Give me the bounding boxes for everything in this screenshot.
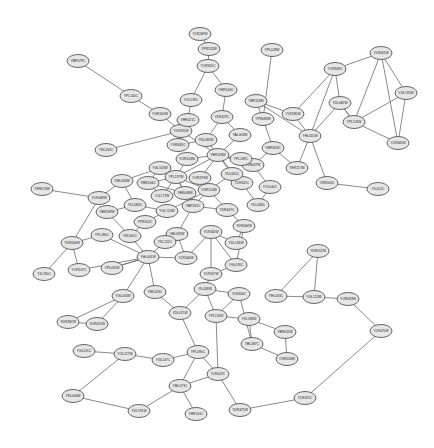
- graph-node[interactable]: YDR447C: [216, 204, 238, 217]
- graph-node[interactable]: YDL184C: [247, 199, 269, 212]
- node-ellipse[interactable]: [68, 264, 90, 277]
- node-ellipse[interactable]: [200, 268, 222, 281]
- graph-node[interactable]: YBR079C: [67, 55, 89, 68]
- node-ellipse[interactable]: [189, 28, 211, 41]
- graph-node[interactable]: YGL147C: [152, 354, 174, 367]
- node-ellipse[interactable]: [86, 318, 108, 331]
- graph-node[interactable]: YLR048W: [88, 192, 110, 205]
- node-ellipse[interactable]: [167, 139, 189, 152]
- node-ellipse[interactable]: [154, 236, 176, 249]
- graph-node[interactable]: YJL190C: [33, 268, 55, 281]
- graph-node[interactable]: YLR029C: [207, 368, 229, 381]
- graph-node[interactable]: YBR118W: [245, 95, 267, 108]
- graph-node[interactable]: YDL136W: [225, 237, 247, 250]
- node-ellipse[interactable]: [119, 230, 141, 243]
- graph-node[interactable]: YDR064W: [61, 237, 83, 250]
- node-ellipse[interactable]: [221, 168, 243, 181]
- graph-node[interactable]: YDL083C: [124, 199, 146, 212]
- graph-node[interactable]: YOR167C: [68, 264, 90, 277]
- graph-node[interactable]: YPL131W: [343, 116, 365, 129]
- graph-node[interactable]: YBR031W: [274, 326, 296, 339]
- node-ellipse[interactable]: [324, 63, 346, 76]
- graph-node[interactable]: YMR309C: [262, 142, 284, 155]
- node-ellipse[interactable]: [111, 175, 133, 188]
- node-ellipse[interactable]: [265, 290, 287, 303]
- graph-node[interactable]: YPL081W: [101, 262, 123, 275]
- graph-node[interactable]: YOR204W: [176, 153, 198, 166]
- node-ellipse[interactable]: [67, 55, 89, 68]
- node-ellipse[interactable]: [387, 137, 409, 150]
- node-ellipse[interactable]: [282, 108, 304, 121]
- node-ellipse[interactable]: [205, 310, 227, 323]
- node-ellipse[interactable]: [177, 114, 199, 127]
- graph-node[interactable]: YLR167W: [200, 268, 222, 281]
- node-ellipse[interactable]: [337, 293, 359, 306]
- node-ellipse[interactable]: [180, 94, 202, 107]
- graph-node[interactable]: YAL003W: [229, 129, 251, 142]
- node-ellipse[interactable]: [307, 245, 329, 258]
- node-ellipse[interactable]: [152, 354, 174, 367]
- node-ellipse[interactable]: [151, 190, 173, 203]
- node-ellipse[interactable]: [370, 325, 392, 338]
- graph-node[interactable]: YDR429C: [211, 111, 233, 124]
- graph-node[interactable]: YDL082W: [329, 97, 351, 110]
- graph-node[interactable]: YGL076C: [225, 259, 247, 272]
- graph-node[interactable]: YBR048W: [174, 187, 196, 200]
- graph-node[interactable]: YLR340W: [200, 226, 222, 239]
- node-ellipse[interactable]: [185, 408, 207, 421]
- node-ellipse[interactable]: [187, 346, 209, 359]
- node-ellipse[interactable]: [197, 60, 219, 73]
- graph-node[interactable]: YGL103W: [149, 162, 171, 175]
- graph-node[interactable]: YBR189W: [96, 206, 118, 219]
- graph-node[interactable]: YML073C: [169, 380, 191, 393]
- node-ellipse[interactable]: [88, 192, 110, 205]
- graph-node[interactable]: YGL123W: [303, 291, 325, 304]
- graph-node[interactable]: YPL131W: [205, 310, 227, 323]
- graph-node[interactable]: YGL123W: [156, 205, 178, 218]
- node-ellipse[interactable]: [91, 229, 113, 242]
- node-ellipse[interactable]: [286, 162, 308, 175]
- graph-node[interactable]: YKL081W: [195, 134, 217, 147]
- node-ellipse[interactable]: [245, 95, 267, 108]
- node-ellipse[interactable]: [299, 130, 321, 143]
- node-ellipse[interactable]: [61, 237, 83, 250]
- node-ellipse[interactable]: [73, 345, 95, 358]
- graph-node[interactable]: YHL001W: [137, 251, 159, 264]
- node-ellipse[interactable]: [169, 380, 191, 393]
- node-ellipse[interactable]: [294, 392, 316, 405]
- node-ellipse[interactable]: [95, 144, 117, 157]
- graph-node[interactable]: YLR249W: [189, 28, 211, 41]
- graph-node[interactable]: YHR141C: [185, 408, 207, 421]
- graph-node[interactable]: YPL090C: [91, 229, 113, 242]
- node-ellipse[interactable]: [216, 204, 238, 217]
- graph-node[interactable]: YDR025W: [86, 318, 108, 331]
- graph-node[interactable]: YBR118W: [207, 149, 229, 162]
- graph-node[interactable]: YDR471W: [229, 404, 251, 417]
- node-ellipse[interactable]: [395, 87, 417, 100]
- graph-node[interactable]: YLR185W: [282, 108, 304, 121]
- node-ellipse[interactable]: [259, 181, 281, 194]
- graph-node[interactable]: YHL033C: [265, 290, 287, 303]
- graph-node[interactable]: YBL087C: [241, 338, 263, 351]
- graph-node[interactable]: YIL018W: [194, 283, 216, 296]
- graph-node[interactable]: YER117W: [286, 162, 308, 175]
- node-ellipse[interactable]: [370, 47, 392, 60]
- node-ellipse[interactable]: [198, 184, 220, 197]
- graph-node[interactable]: YOR361C: [197, 60, 219, 73]
- node-ellipse[interactable]: [149, 162, 171, 175]
- node-ellipse[interactable]: [200, 226, 222, 239]
- node-ellipse[interactable]: [128, 405, 150, 418]
- graph-node[interactable]: YJL177W: [151, 190, 173, 203]
- node-ellipse[interactable]: [262, 142, 284, 155]
- node-ellipse[interactable]: [62, 390, 84, 403]
- graph-node[interactable]: YMR146C: [137, 177, 159, 190]
- graph-node[interactable]: YDL191W: [128, 405, 150, 418]
- node-ellipse[interactable]: [198, 43, 220, 56]
- node-ellipse[interactable]: [182, 200, 204, 213]
- graph-node[interactable]: YML063W: [111, 175, 133, 188]
- graph-node[interactable]: YGL135W: [395, 87, 417, 100]
- node-ellipse[interactable]: [211, 111, 233, 124]
- node-ellipse[interactable]: [247, 199, 269, 212]
- graph-node[interactable]: YOR369C: [324, 63, 346, 76]
- node-ellipse[interactable]: [112, 290, 134, 303]
